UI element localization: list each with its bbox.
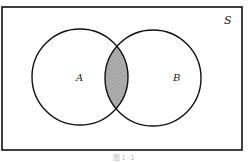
venn-diagram: S A B bbox=[0, 0, 249, 162]
universe-label: S bbox=[224, 14, 232, 27]
set-b-label: B bbox=[172, 72, 180, 83]
figure-caption: 图1-1 bbox=[0, 152, 249, 162]
set-a-label: A bbox=[75, 72, 83, 83]
